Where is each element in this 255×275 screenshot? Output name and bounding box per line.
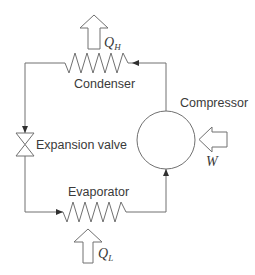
flow-arrowhead-evaporator-inlet xyxy=(56,209,63,215)
compressor-symbol xyxy=(137,111,195,169)
pipe-compressor-to-condenser xyxy=(132,63,166,111)
flow-arrowhead-condenser-inlet xyxy=(132,60,139,66)
heat-in-symbol: QL xyxy=(98,246,113,263)
evaporator-coil xyxy=(63,202,130,222)
expansion-valve-symbol xyxy=(16,133,34,156)
work-in-arrow xyxy=(199,127,227,152)
condenser-label: Condenser xyxy=(74,77,135,91)
pipe-condenser-to-valve xyxy=(25,63,65,133)
condenser-coil xyxy=(65,53,132,73)
compressor-label: Compressor xyxy=(180,96,248,110)
heat-out-symbol: QH xyxy=(104,35,121,52)
flow-arrowhead-compressor-inlet xyxy=(163,169,169,176)
pipe-evaporator-to-compressor xyxy=(130,169,166,212)
work-in-symbol: W xyxy=(206,154,219,169)
expansion-valve-label: Expansion valve xyxy=(36,138,127,152)
evaporator-label: Evaporator xyxy=(68,185,129,199)
flow-arrowhead-valve-inlet xyxy=(22,126,28,133)
pipe-valve-to-evaporator xyxy=(25,156,63,212)
refrigeration-cycle-diagram: Condenser Compressor Expansion valve Eva… xyxy=(0,0,255,275)
